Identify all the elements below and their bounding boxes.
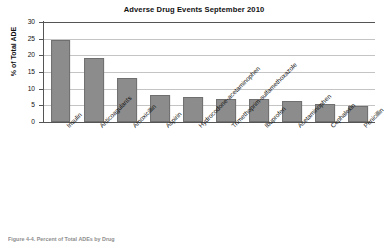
y-tick-label-5: 5: [5, 101, 35, 108]
bar[interactable]: [84, 58, 104, 122]
figure-container: Adverse Drug Events September 2010 % of …: [0, 0, 388, 247]
gridline-0: [44, 122, 375, 123]
bar[interactable]: [183, 97, 203, 122]
y-tick-mark-30: [39, 22, 44, 23]
y-tick-label-30: 30: [5, 18, 35, 25]
y-tick-label-20: 20: [5, 51, 35, 58]
bar-slot: [44, 22, 77, 122]
y-tick-label-15: 15: [5, 68, 35, 75]
x-axis-labels: InsulinAnticoagulantsAmoxicillinAspirinH…: [44, 124, 375, 209]
y-tick-mark-10: [39, 89, 44, 90]
y-tick-mark-20: [39, 55, 44, 56]
y-tick-label-0: 0: [5, 118, 35, 125]
y-tick-mark-25: [39, 39, 44, 40]
y-tick-mark-0: [39, 122, 44, 123]
y-tick-mark-5: [39, 105, 44, 106]
y-tick-label-25: 25: [5, 35, 35, 42]
bar-slot: [77, 22, 110, 122]
bar[interactable]: [51, 40, 71, 122]
bar-series: [44, 22, 375, 122]
y-tick-mark-15: [39, 72, 44, 73]
bar-slot: [176, 22, 209, 122]
y-tick-label-10: 10: [5, 85, 35, 92]
figure-caption: Figure 4-4. Percent of Total ADEs by Dru…: [8, 236, 380, 242]
chart-title: Adverse Drug Events September 2010: [0, 5, 388, 14]
